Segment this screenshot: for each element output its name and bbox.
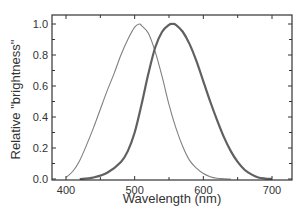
photopic-curve [80, 24, 272, 179]
y-axis-label: Relative "brightness" [8, 39, 23, 159]
x-tick-label: 400 [57, 184, 75, 196]
y-tick-label: 0.4 [33, 111, 48, 123]
ticks-layer: 4005006007000.00.20.40.60.81.0 [33, 15, 292, 196]
x-axis-label: Wavelength (nm) [123, 191, 222, 206]
plot-frame [52, 15, 292, 180]
y-tick-label: 0.6 [33, 80, 48, 92]
series-layer [66, 24, 272, 179]
scotopic-curve [66, 24, 231, 179]
x-tick-label: 700 [263, 184, 281, 196]
y-tick-label: 1.0 [33, 18, 48, 30]
y-tick-label: 0.2 [33, 142, 48, 154]
chart: 4005006007000.00.20.40.60.81.0 Wavelengt… [0, 0, 307, 223]
y-tick-label: 0.8 [33, 49, 48, 61]
y-tick-label: 0.0 [33, 173, 48, 185]
